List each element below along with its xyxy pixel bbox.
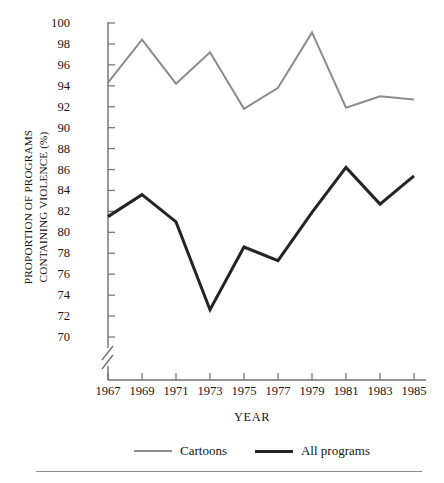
y-tick-label: 82 — [26, 205, 70, 217]
y-axis-tick-labels: 100989694929088868482807876747270 — [22, 18, 70, 358]
plot-svg — [78, 18, 426, 380]
axis-ticks — [108, 23, 414, 380]
y-tick-label: 94 — [26, 80, 70, 92]
x-tick-label: 1985 — [392, 384, 436, 399]
y-tick-label: 98 — [26, 38, 70, 50]
bottom-divider-rule — [36, 471, 422, 472]
legend-line-swatch-icon — [134, 450, 172, 452]
x-axis-title: YEAR — [78, 410, 426, 425]
legend-entry[interactable]: All programs — [255, 443, 370, 459]
legend-entry[interactable]: Cartoons — [134, 443, 227, 459]
series-line-cartoons — [108, 32, 414, 108]
legend-label: Cartoons — [180, 443, 227, 459]
y-tick-label: 96 — [26, 59, 70, 71]
y-tick-label: 70 — [26, 331, 70, 343]
y-tick-label: 84 — [26, 184, 70, 196]
y-tick-label: 76 — [26, 268, 70, 280]
y-tick-label: 88 — [26, 143, 70, 155]
y-tick-label: 74 — [26, 289, 70, 301]
data-series-group — [108, 32, 414, 309]
y-tick-label: 90 — [26, 122, 70, 134]
series-line-all-programs — [108, 167, 414, 309]
y-tick-label: 78 — [26, 247, 70, 259]
violence-line-chart-figure: PROPORTION OF PROGRAMS CONTAINING VIOLEN… — [0, 0, 444, 483]
plot-area — [78, 18, 426, 380]
chart-legend: CartoonsAll programs — [78, 440, 426, 462]
x-axis-tick-labels: 1967196919711973197519771979198119831985 — [78, 384, 426, 404]
legend-label: All programs — [301, 443, 370, 459]
legend-line-swatch-icon — [255, 450, 293, 453]
y-tick-label: 72 — [26, 310, 70, 322]
y-tick-label: 100 — [26, 17, 70, 29]
y-tick-label: 80 — [26, 226, 70, 238]
y-tick-label: 86 — [26, 164, 70, 176]
y-tick-label: 92 — [26, 101, 70, 113]
